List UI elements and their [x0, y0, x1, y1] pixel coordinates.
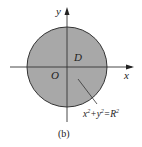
diagram-canvas: y x O D x2+y2=R2 (b) — [0, 0, 142, 147]
origin-label: O — [51, 69, 59, 81]
circle-equation: x2+y2=R2 — [82, 108, 119, 119]
x-axis-label: x — [123, 69, 129, 81]
y-axis-label: y — [55, 5, 61, 17]
figure-caption: (b) — [58, 128, 70, 140]
region-label: D — [73, 51, 82, 63]
y-axis-arrow-icon — [65, 7, 70, 15]
